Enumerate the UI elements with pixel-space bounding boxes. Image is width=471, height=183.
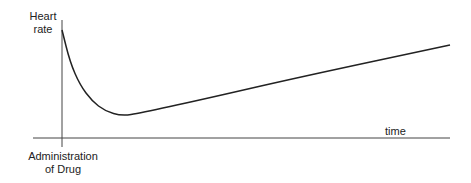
y-label-line1: Heart [20, 10, 66, 23]
y-label-line2: rate [20, 23, 66, 36]
event-label-line2: of Drug [20, 163, 106, 176]
event-label-line1: Administration [20, 150, 106, 163]
y-axis-label: Heart rate [20, 10, 66, 36]
x-axis-label: time [385, 125, 406, 138]
heart-rate-curve [62, 30, 450, 115]
event-label: Administration of Drug [20, 150, 106, 176]
heart-rate-diagram: Heart rate time Administration of Drug [0, 0, 471, 183]
